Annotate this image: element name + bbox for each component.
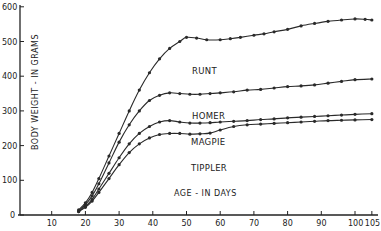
data-point-marker [239,36,242,39]
data-point-marker [353,118,356,121]
series-runt [77,17,373,211]
x-tick-label: 105 [365,219,380,228]
data-point-marker [313,83,316,86]
data-point-marker [118,141,121,144]
x-ticks: 102030405060708090100105 [47,211,380,228]
data-point-marker [259,122,262,125]
data-point-marker [128,142,131,145]
data-point-marker [208,121,211,124]
data-point-marker [326,82,329,85]
x-axis-title: AGE - IN DAYS [174,189,237,198]
data-point-marker [259,118,262,121]
data-point-marker [188,93,191,96]
data-point-marker [208,92,211,95]
series-label-runt: RUNT [192,66,217,76]
data-point-marker [178,92,181,95]
data-point-marker [107,172,110,175]
data-point-marker [107,161,110,164]
data-point-marker [118,163,121,166]
x-tick-label: 60 [215,219,225,228]
data-point-marker [148,71,151,74]
data-point-marker [168,132,171,135]
data-point-marker [195,36,198,39]
data-point-marker [138,88,141,91]
y-tick-label: 400 [2,72,17,81]
data-point-marker [138,142,141,145]
data-point-marker [229,37,232,40]
data-point-marker [107,177,110,180]
data-point-marker [286,116,289,119]
x-tick-label: 70 [249,219,259,228]
data-point-marker [168,91,171,94]
data-point-marker [118,156,121,159]
data-point-marker [273,117,276,120]
data-point-marker [340,113,343,116]
data-point-marker [259,88,262,91]
data-point-marker [188,121,191,124]
data-point-marker [84,206,87,209]
x-tick-label: 90 [316,219,326,228]
data-point-marker [77,210,80,213]
data-point-marker [340,80,343,83]
data-point-marker [219,38,222,41]
data-point-marker [326,20,329,23]
data-point-marker [313,115,316,118]
data-point-marker [97,182,100,185]
data-point-marker [364,18,367,21]
data-point-marker [286,85,289,88]
data-point-marker [205,38,208,41]
data-point-marker [286,28,289,31]
series-label-tippler: TIPPLER [190,163,227,173]
data-point-marker [208,132,211,135]
data-point-marker [299,24,302,27]
data-point-marker [353,78,356,81]
data-point-marker [185,36,188,39]
data-point-marker [178,40,181,43]
data-point-marker [219,128,222,131]
series-group [77,17,373,213]
data-point-marker [370,77,373,80]
data-point-marker [326,114,329,117]
x-tick-label: 50 [182,219,192,228]
data-point-marker [198,93,201,96]
data-point-marker [128,123,131,126]
data-point-marker [232,125,235,128]
data-point-marker [246,123,249,126]
data-point-marker [148,136,151,139]
axes [18,5,378,215]
x-tick-label: 80 [283,219,293,228]
data-point-marker [273,30,276,33]
data-point-marker [299,116,302,119]
data-point-marker [353,17,356,20]
data-point-marker [262,32,265,35]
data-point-marker [299,120,302,123]
series-labels: RUNT HOMER MAGPIE TIPPLER [190,66,227,173]
y-tick-label: 200 [2,142,17,151]
data-point-marker [232,90,235,93]
data-point-marker [286,121,289,124]
data-point-marker [370,112,373,115]
data-point-marker [188,133,191,136]
data-point-marker [313,120,316,123]
data-point-marker [158,57,161,60]
y-tick-label: 500 [2,38,17,47]
data-point-marker [97,177,100,180]
data-point-marker [232,120,235,123]
data-point-marker [353,113,356,116]
data-point-marker [158,94,161,97]
y-tick-label: 0 [10,211,15,220]
data-point-marker [299,84,302,87]
data-point-marker [138,109,141,112]
y-tick-label: 100 [2,176,17,185]
data-point-marker [313,22,316,25]
data-point-marker [326,119,329,122]
data-point-marker [168,119,171,122]
data-point-marker [107,154,110,157]
x-tick-label: 30 [114,219,124,228]
series-label-homer: HOMER [192,111,225,121]
data-point-marker [370,118,373,121]
data-point-marker [148,125,151,128]
data-point-marker [219,91,222,94]
data-point-marker [178,132,181,135]
data-point-marker [91,200,94,203]
